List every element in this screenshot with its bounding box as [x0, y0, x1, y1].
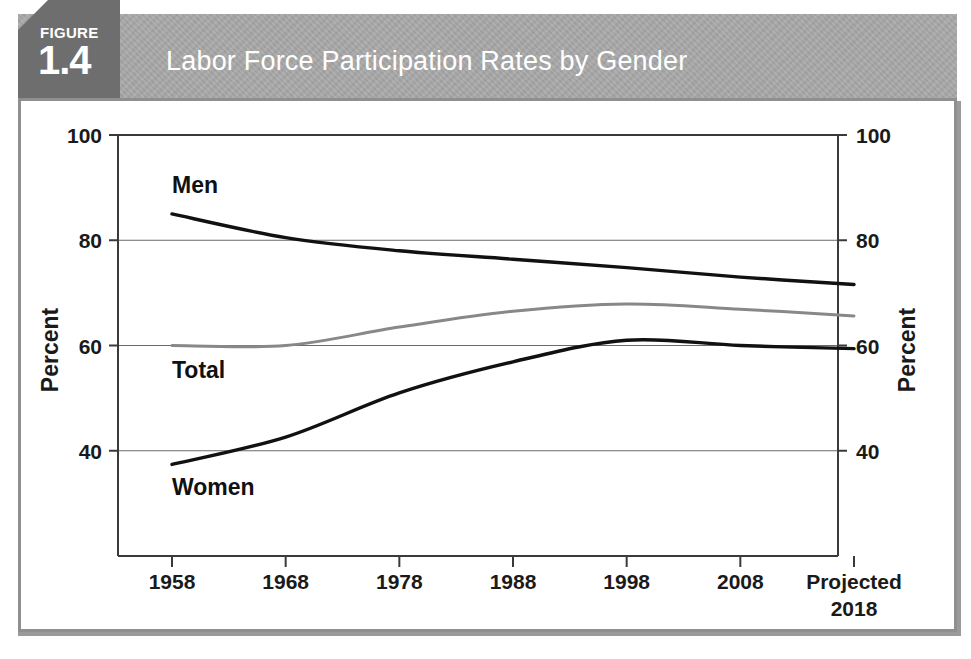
figure-header-band: Labor Force Participation Rates by Gende…: [18, 14, 957, 98]
chart-panel: [18, 98, 957, 632]
figure-container: Labor Force Participation Rates by Gende…: [0, 0, 971, 659]
page-title: Labor Force Participation Rates by Gende…: [166, 46, 687, 77]
figure-badge-number: 1.4: [38, 38, 91, 83]
